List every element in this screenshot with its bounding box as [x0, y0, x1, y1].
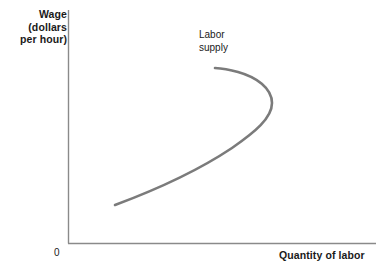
- x-axis-label: Quantity of labor: [279, 249, 365, 262]
- labor-supply-curve: [115, 68, 272, 205]
- labor-supply-curve-label: Labor supply: [199, 29, 228, 54]
- labor-supply-figure: Wage (dollars per hour) Quantity of labo…: [0, 0, 380, 269]
- y-axis-label: Wage (dollars per hour): [20, 8, 67, 46]
- origin-label: 0: [54, 247, 60, 259]
